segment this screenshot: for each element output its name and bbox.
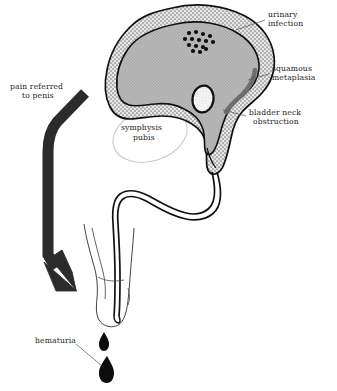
label-urinary-infection-line2: infection [268, 19, 303, 28]
hematuria-blood-drops [99, 332, 114, 383]
blood-drop-upper [99, 332, 109, 351]
label-symphysis-pubis-line2: pubis [133, 133, 155, 142]
label-urinary-infection-line1: urinary [268, 10, 298, 19]
pain-referral-arrow [44, 93, 85, 291]
label-bladder-neck-obstruction-line2: obstruction [253, 117, 299, 126]
label-pain-referred-to-penis: pain referred to penis [10, 82, 63, 100]
label-symphysis-pubis-line1: symphysis [121, 123, 162, 132]
label-urinary-infection: urinary infection [268, 10, 303, 28]
label-squamous-metaplasia: squamous metaplasia [272, 64, 316, 82]
urethra-group [113, 172, 221, 323]
penis-outline-group [84, 224, 134, 327]
leader-hematuria [76, 344, 102, 366]
urethra-inner-line [113, 172, 215, 316]
penis-left-contour [84, 224, 116, 327]
urethra-meatus [114, 316, 120, 323]
penis-left-inner-contour [92, 228, 105, 299]
pain-referral-arrow-shaft [48, 93, 85, 268]
bladder-diagram-svg: urinary infection squamous metaplasia bl… [0, 0, 337, 391]
label-squamous-metaplasia-line2: metaplasia [272, 73, 316, 82]
label-hematuria-line1: hematuria [35, 336, 76, 345]
blood-drop-lower [99, 356, 114, 383]
label-pain-referred-line2: to penis [22, 91, 54, 100]
label-pain-referred-line1: pain referred [10, 82, 63, 91]
label-hematuria: hematuria [35, 336, 76, 345]
label-squamous-metaplasia-line1: squamous [272, 64, 312, 73]
label-bladder-neck-obstruction-line1: bladder neck [249, 108, 301, 117]
label-bladder-neck-obstruction: bladder neck obstruction [249, 108, 301, 126]
medical-diagram-figure: urinary infection squamous metaplasia bl… [0, 0, 337, 391]
